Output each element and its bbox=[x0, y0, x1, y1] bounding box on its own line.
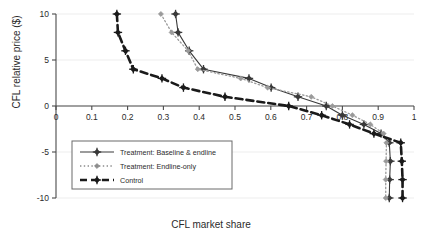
x-tick-label: 0.1 bbox=[86, 112, 98, 122]
chart-figure: 1050-5-10 00.10.20.30.40.50.60.70.80.91 … bbox=[0, 0, 422, 238]
legend-label: Treatment: Baseline & endline bbox=[120, 148, 216, 157]
x-tick-label: 0.2 bbox=[122, 112, 134, 122]
legend-label: Control bbox=[120, 176, 144, 185]
legend-label: Treatment: Endline-only bbox=[120, 162, 196, 171]
x-tick-label: 0.3 bbox=[157, 112, 169, 122]
y-tick-label: 5 bbox=[44, 55, 49, 65]
chart-legend: Treatment: Baseline & endlineTreatment: … bbox=[72, 141, 232, 189]
x-tick-label: 0.6 bbox=[265, 112, 277, 122]
y-axis-title: CFL relative price ($) bbox=[11, 16, 22, 109]
y-tick-label: 10 bbox=[40, 9, 50, 19]
x-tick-label: 1 bbox=[412, 112, 417, 122]
chart-canvas: 1050-5-10 00.10.20.30.40.50.60.70.80.91 … bbox=[0, 0, 422, 238]
x-axis-title: CFL market share bbox=[171, 219, 251, 230]
y-tick-label: 0 bbox=[44, 101, 49, 111]
x-tick-label: 0.4 bbox=[193, 112, 205, 122]
y-tick-label: -5 bbox=[41, 147, 49, 157]
x-tick-label: 0 bbox=[54, 112, 59, 122]
y-tick-label: -10 bbox=[37, 193, 50, 203]
x-tick-label: 0.9 bbox=[372, 112, 384, 122]
x-tick-label: 0.5 bbox=[229, 112, 241, 122]
